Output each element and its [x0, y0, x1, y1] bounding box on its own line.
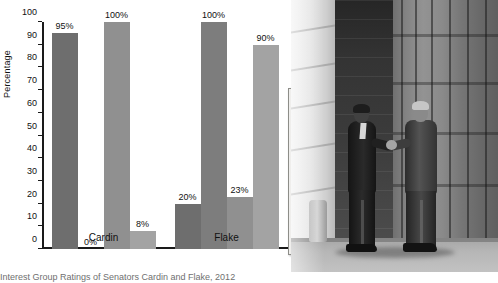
y-tick-50: 50 [27, 121, 37, 131]
bar-value-label: 100% [202, 10, 225, 20]
bar-flake-series-3: 90% [253, 45, 279, 249]
y-tickmark-100 [38, 21, 42, 22]
handshake-photo [291, 0, 498, 272]
y-tick-90: 90 [27, 30, 37, 40]
y-tick-0: 0 [32, 234, 37, 244]
y-tickmark-20 [38, 203, 42, 204]
bar-flake-series-1: 100% [201, 22, 227, 249]
y-tickmark-60 [38, 112, 42, 113]
y-tick-60: 60 [27, 98, 37, 108]
plot-area: 0102030405060708090100 95%0%100%8%20%100… [42, 22, 288, 249]
bar-value-label: 23% [230, 185, 248, 195]
y-tickmark-40 [38, 157, 42, 158]
y-tickmark-70 [38, 89, 42, 90]
y-tick-40: 40 [27, 143, 37, 153]
y-tick-10: 10 [27, 211, 37, 221]
y-tick-70: 70 [27, 75, 37, 85]
photo-edge-fade [291, 0, 498, 272]
bar-cardin-series-3: 8% [130, 231, 156, 249]
y-tickmark-30 [38, 180, 42, 181]
bar-value-label: 8% [136, 219, 149, 229]
x-label-flake: Flake [214, 232, 238, 243]
y-axis-label: Percentage [2, 50, 12, 98]
bar-value-label: 100% [105, 10, 128, 20]
bar-value-label: 90% [256, 33, 274, 43]
y-tickmark-0 [38, 248, 42, 249]
x-label-cardin: Cardin [89, 232, 118, 243]
bar-cardin-series-2: 100% [104, 22, 130, 249]
y-axis-line [42, 22, 44, 249]
y-tickmark-80 [38, 66, 42, 67]
bar-value-label: 95% [55, 21, 73, 31]
y-tick-30: 30 [27, 166, 37, 176]
y-tickmark-10 [38, 225, 42, 226]
figure-caption: Interest Group Ratings of Senators Cardi… [0, 272, 420, 283]
bar-cardin-series-0: 95% [52, 33, 78, 249]
bar-value-label: 20% [178, 192, 196, 202]
y-tick-20: 20 [27, 189, 37, 199]
bar-flake-series-0: 20% [175, 204, 201, 249]
y-tickmark-90 [38, 44, 42, 45]
y-tick-100: 100 [22, 7, 37, 17]
y-tick-80: 80 [27, 52, 37, 62]
y-tickmark-50 [38, 135, 42, 136]
bar-chart: Percentage 0102030405060708090100 95%0%1… [0, 0, 300, 283]
